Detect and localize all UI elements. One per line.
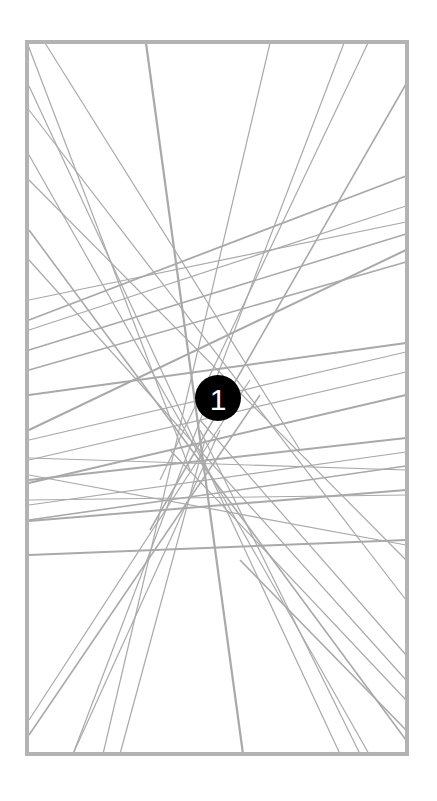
badge-label: 1 bbox=[210, 383, 227, 416]
line-figure: 1 bbox=[0, 0, 437, 801]
number-badge: 1 bbox=[195, 375, 241, 421]
